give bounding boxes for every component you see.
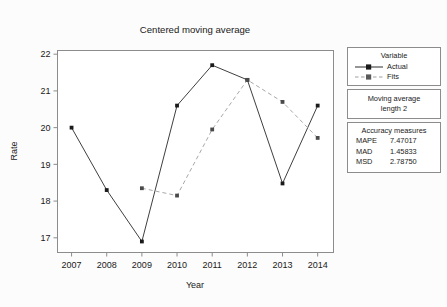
- accuracy-value-mape: 7.47017: [390, 136, 417, 147]
- legend-label-fits: Fits: [387, 72, 399, 82]
- accuracy-key-mad: MAD: [356, 147, 390, 158]
- x-tick-label: 2013: [273, 260, 293, 270]
- moving-average-line1: Moving average: [350, 94, 438, 104]
- legend-label-actual: Actual: [387, 62, 408, 72]
- fits-line-symbol-icon: [354, 72, 384, 82]
- data-point-marker-fits: [316, 136, 320, 140]
- y-tick-label: 20: [40, 123, 50, 133]
- legend-title: Variable: [350, 51, 438, 60]
- accuracy-key-msd: MSD: [356, 157, 390, 168]
- legend-stack: Variable Actual Fits Moving average leng…: [347, 47, 441, 176]
- data-point-marker-actual: [70, 126, 74, 130]
- accuracy-value-mad: 1.45833: [390, 147, 417, 158]
- x-tick-label: 2009: [132, 260, 152, 270]
- variable-legend-box: Variable Actual Fits: [347, 47, 441, 86]
- accuracy-row-msd: MSD 2.78750: [351, 157, 437, 168]
- y-tick-label: 21: [40, 86, 50, 96]
- data-point-marker-fits: [245, 78, 249, 82]
- legend-item-actual: Actual: [350, 62, 438, 72]
- accuracy-row-mad: MAD 1.45833: [351, 147, 437, 158]
- data-point-marker-actual: [175, 104, 179, 108]
- data-point-marker-actual: [316, 104, 320, 108]
- data-point-marker-fits: [281, 100, 285, 104]
- accuracy-value-msd: 2.78750: [390, 157, 417, 168]
- accuracy-key-mape: MAPE: [356, 136, 390, 147]
- data-point-marker-actual: [140, 240, 144, 244]
- data-point-marker-actual: [281, 182, 285, 186]
- y-tick-label: 19: [40, 160, 50, 170]
- accuracy-title: Accuracy measures: [351, 126, 437, 135]
- moving-average-line2: length 2: [350, 104, 438, 114]
- y-tick-label: 17: [40, 233, 50, 243]
- x-axis-ticks: 20072008200920102011201220132014: [62, 253, 328, 270]
- moving-average-box: Moving average length 2: [347, 89, 441, 119]
- x-axis-title: Year: [186, 280, 204, 290]
- y-axis-ticks: 171819202122: [40, 49, 57, 243]
- actual-line-symbol-icon: [354, 62, 384, 72]
- plot-frame: [58, 51, 334, 253]
- chart-title: Centered moving average: [140, 24, 250, 35]
- legend-item-fits: Fits: [350, 72, 438, 82]
- x-tick-label: 2007: [62, 260, 82, 270]
- y-tick-label: 18: [40, 196, 50, 206]
- data-point-marker-actual: [210, 63, 214, 67]
- chart-container: Centered moving average Rate Year 171819…: [0, 0, 447, 307]
- x-tick-label: 2008: [97, 260, 117, 270]
- x-tick-label: 2010: [167, 260, 187, 270]
- data-point-marker-actual: [105, 188, 109, 192]
- accuracy-measures-box: Accuracy measures MAPE 7.47017 MAD 1.458…: [347, 122, 441, 173]
- data-point-marker-fits: [175, 194, 179, 198]
- accuracy-row-mape: MAPE 7.47017: [351, 136, 437, 147]
- y-tick-label: 22: [40, 49, 50, 59]
- x-tick-label: 2011: [203, 260, 222, 270]
- y-axis-title: Rate: [9, 141, 19, 160]
- data-point-marker-fits: [210, 128, 214, 132]
- x-tick-label: 2012: [237, 260, 257, 270]
- data-point-marker-fits: [140, 186, 144, 190]
- x-tick-label: 2014: [308, 260, 328, 270]
